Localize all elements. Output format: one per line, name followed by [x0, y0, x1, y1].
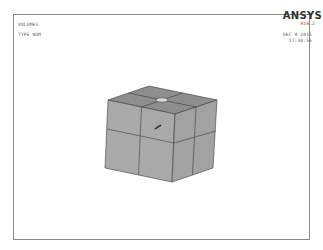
- top-hole: [156, 98, 168, 102]
- cube-volume-model: [0, 0, 323, 250]
